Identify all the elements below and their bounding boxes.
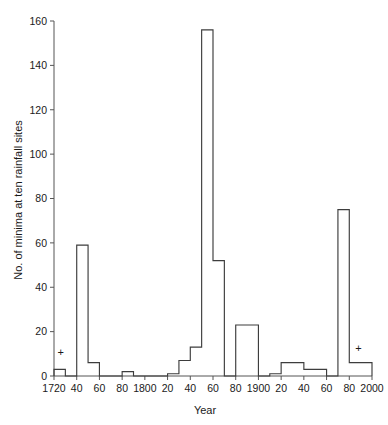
chart-canvas: 020406080100120140160 172040608018002040… [0,0,388,425]
rainfall-minima-histogram: 020406080100120140160 172040608018002040… [0,0,388,425]
x-tick-label: 80 [116,382,128,394]
plus-marker-right: + [355,342,361,354]
x-tick-label: 1900 [247,382,271,394]
histogram-step-path [54,30,372,376]
plus-marker-left: + [58,346,64,358]
x-tick-label: 80 [230,382,242,394]
x-tick-label: 40 [184,382,196,394]
y-tick-label: 0 [41,370,47,382]
x-tick-label: 60 [94,382,106,394]
y-axis-title: No. of minima at ten rainfall sites [12,120,24,280]
x-axis-title: Year [194,404,217,416]
histogram-outline [54,30,372,376]
y-tick-label: 140 [29,59,47,71]
x-axis: 17204060801800204060801900204060802000 [42,376,384,394]
x-tick-label: 40 [71,382,83,394]
y-tick-label: 100 [29,148,47,160]
annotation-markers: ++ [58,342,362,358]
y-tick-label: 80 [35,192,47,204]
x-tick-label: 80 [343,382,355,394]
x-tick-label: 40 [298,382,310,394]
y-tick-label: 60 [35,237,47,249]
y-tick-label: 120 [29,104,47,116]
x-tick-label: 20 [275,382,287,394]
x-tick-label: 20 [162,382,174,394]
y-tick-label: 20 [35,325,47,337]
x-tick-label: 2000 [360,382,384,394]
y-axis: 020406080100120140160 [29,15,54,382]
x-tick-label: 60 [207,382,219,394]
x-tick-label: 1720 [42,382,66,394]
y-tick-label: 160 [29,15,47,27]
x-tick-label: 1800 [133,382,157,394]
y-tick-label: 40 [35,281,47,293]
x-tick-label: 60 [321,382,333,394]
